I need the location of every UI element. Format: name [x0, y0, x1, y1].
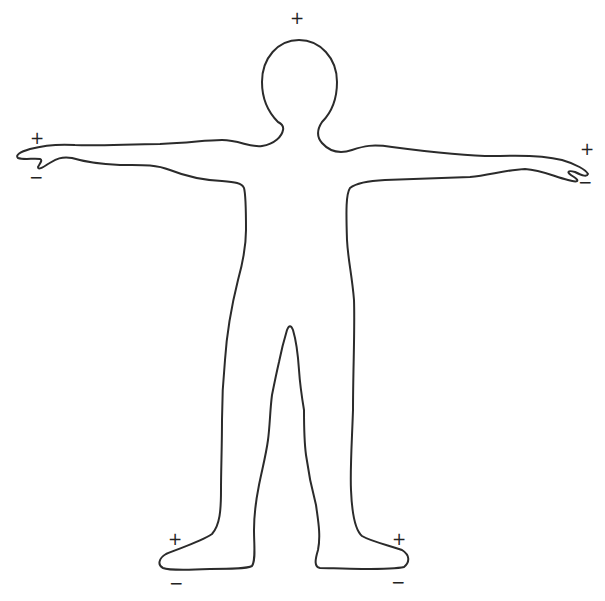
- minus-sign-left-hand: −: [29, 169, 43, 186]
- plus-sign-head: +: [290, 10, 304, 27]
- minus-sign-left-foot: −: [169, 575, 183, 592]
- plus-sign-left-foot: +: [168, 531, 182, 548]
- minus-sign-right-foot: −: [391, 574, 405, 591]
- plus-sign-left-hand: +: [30, 130, 44, 147]
- body-outline-diagram: [0, 0, 605, 601]
- minus-sign-right-hand: −: [578, 174, 592, 191]
- body-outline: [17, 40, 588, 570]
- plus-sign-right-hand: +: [580, 141, 594, 158]
- plus-sign-right-foot: +: [392, 531, 406, 548]
